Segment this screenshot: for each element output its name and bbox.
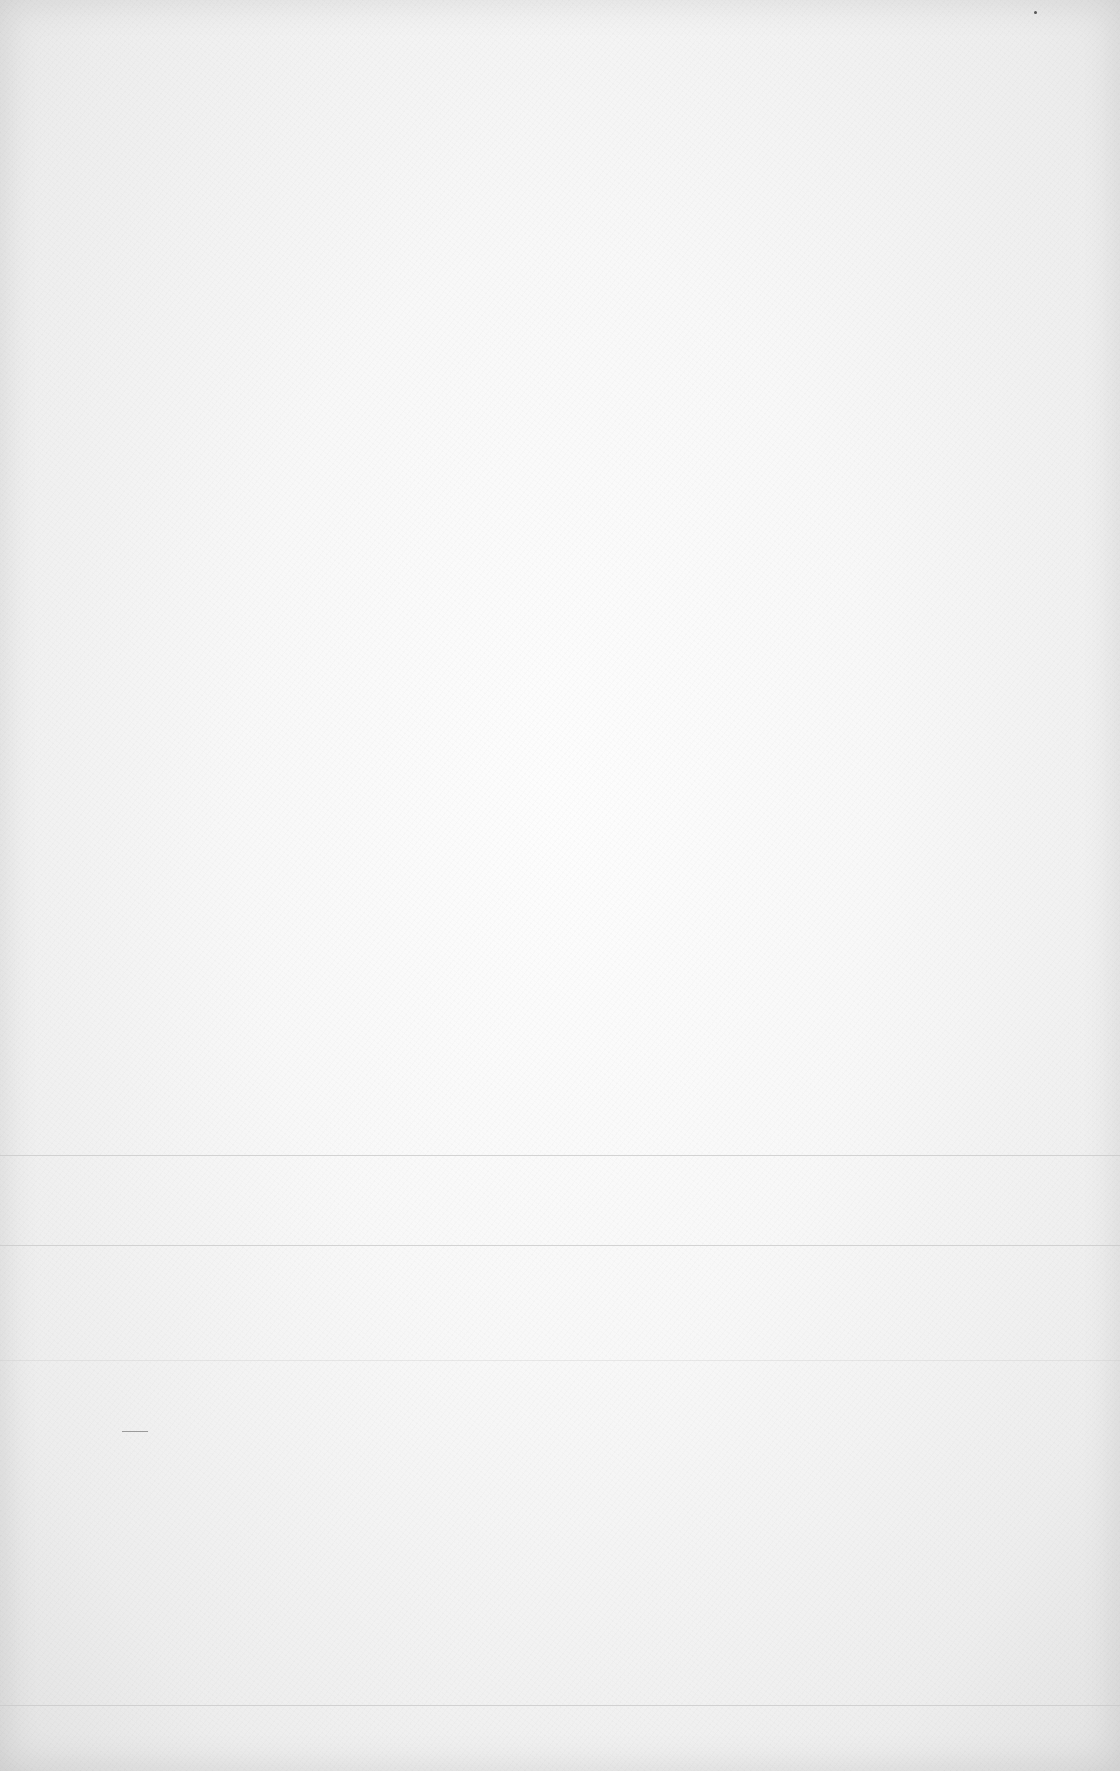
horizontal-rule xyxy=(0,1155,1120,1156)
horizontal-rule xyxy=(0,1705,1120,1706)
horizontal-rule xyxy=(0,1360,1120,1361)
paper-grain-texture xyxy=(0,0,1120,1771)
faint-pencil-mark xyxy=(122,1431,148,1432)
page-edge-shadow xyxy=(0,0,1120,1771)
ink-speck xyxy=(1034,11,1037,14)
horizontal-rule xyxy=(0,1245,1120,1246)
blank-paper-page xyxy=(0,0,1120,1771)
